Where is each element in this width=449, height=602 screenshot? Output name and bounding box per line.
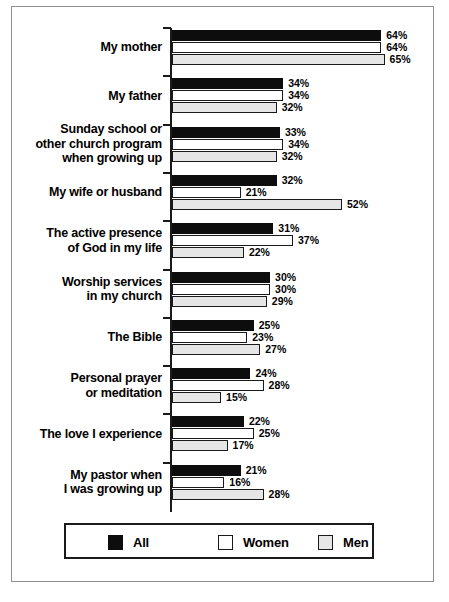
legend-label: All (133, 535, 149, 550)
y-axis-tick (163, 413, 171, 415)
category-label: My pastor when I was growing up (64, 468, 162, 497)
y-axis-tick (163, 317, 171, 319)
bar-men (172, 247, 244, 258)
category-label: My mother (101, 40, 162, 55)
category-label: The Bible (108, 330, 162, 345)
bar-men (172, 199, 342, 210)
bar-all (172, 30, 381, 41)
bar-value-label: 37% (298, 235, 319, 246)
bar-all (172, 465, 241, 476)
bar-men (172, 151, 277, 162)
y-axis-tick (163, 27, 171, 29)
y-axis-tick (163, 75, 171, 77)
bar-value-label: 16% (229, 477, 250, 488)
bar-value-label: 34% (288, 90, 309, 101)
bar-women (172, 284, 270, 295)
bar-women (172, 477, 224, 488)
bar-women (172, 428, 254, 439)
bar-value-label: 29% (272, 296, 293, 307)
bar-men (172, 440, 228, 451)
y-axis-tick (163, 172, 171, 174)
bar-value-label: 15% (226, 392, 247, 403)
bar-value-label: 21% (246, 187, 267, 198)
bar-value-label: 64% (386, 30, 407, 41)
category-label: Worship services in my church (62, 275, 162, 304)
bar-women (172, 332, 247, 343)
bar-value-label: 23% (252, 332, 273, 343)
bar-women (172, 90, 283, 101)
bar-value-label: 34% (288, 139, 309, 150)
bar-all (172, 175, 277, 186)
bar-women (172, 42, 381, 53)
bar-value-label: 64% (386, 42, 407, 53)
bar-value-label: 28% (269, 380, 290, 391)
lightgray-swatch (318, 535, 333, 550)
bar-value-label: 32% (282, 175, 303, 186)
bar-value-label: 28% (269, 489, 290, 500)
bar-men (172, 102, 277, 113)
bar-chart-plot-area: My mother64%64%65%My father34%34%32%Sund… (0, 0, 449, 602)
legend-item-all[interactable]: All (108, 533, 149, 551)
legend-label: Women (243, 535, 289, 550)
y-axis-tick (163, 269, 171, 271)
bar-women (172, 187, 241, 198)
bar-value-label: 22% (249, 247, 270, 258)
bar-men (172, 54, 385, 65)
bar-women (172, 139, 283, 150)
bar-men (172, 489, 264, 500)
bar-value-label: 21% (246, 465, 267, 476)
bar-value-label: 32% (282, 151, 303, 162)
bar-value-label: 17% (233, 440, 254, 451)
y-axis-tick (163, 365, 171, 367)
bar-all (172, 368, 250, 379)
bar-value-label: 30% (275, 272, 296, 283)
bar-all (172, 272, 270, 283)
y-axis-tick (163, 462, 171, 464)
legend-item-men[interactable]: Men (318, 533, 368, 551)
bar-women (172, 380, 264, 391)
legend-label: Men (343, 535, 368, 550)
bar-men (172, 392, 221, 403)
bar-value-label: 33% (285, 127, 306, 138)
bar-all (172, 416, 244, 427)
category-label: Personal prayer or meditation (71, 371, 163, 400)
bar-value-label: 25% (259, 320, 280, 331)
bar-all (172, 223, 273, 234)
bar-men (172, 296, 267, 307)
bar-value-label: 24% (255, 368, 276, 379)
bar-value-label: 31% (278, 223, 299, 234)
category-label: The love I experience (40, 427, 162, 442)
legend-item-women[interactable]: Women (218, 533, 289, 551)
bar-men (172, 344, 260, 355)
bar-all (172, 78, 283, 89)
category-label: The active presence of God in my life (46, 226, 162, 255)
bar-value-label: 22% (249, 416, 270, 427)
white-swatch (218, 535, 233, 550)
y-axis-tick (163, 220, 171, 222)
bar-all (172, 127, 280, 138)
black-swatch (108, 535, 123, 550)
category-label: My wife or husband (49, 185, 162, 200)
bar-value-label: 30% (275, 284, 296, 295)
y-axis-tick (163, 124, 171, 126)
bar-value-label: 65% (390, 54, 411, 65)
bar-value-label: 25% (259, 428, 280, 439)
bar-value-label: 34% (288, 78, 309, 89)
bar-women (172, 235, 293, 246)
category-label: My father (108, 89, 162, 104)
bar-value-label: 27% (265, 344, 286, 355)
bar-value-label: 32% (282, 102, 303, 113)
bar-value-label: 52% (347, 199, 368, 210)
bar-all (172, 320, 254, 331)
category-label: Sunday school or other church program wh… (35, 122, 162, 166)
chart-legend: AllWomenMen (64, 523, 374, 559)
